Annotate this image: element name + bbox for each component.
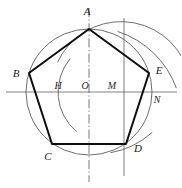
vertex-label-b: B: [13, 67, 20, 79]
vertex-label-e: E: [155, 64, 163, 76]
point-label-h: H: [53, 80, 62, 91]
arc-lower-right-intersect: [111, 132, 153, 152]
pentagon-construction-drawing: A B C D E H O M N: [0, 0, 181, 188]
geometric-figure: A B C D E H O M N: [0, 0, 181, 188]
vertex-label-c: C: [44, 150, 52, 162]
axes-group: [6, 8, 177, 182]
vertex-label-d: D: [133, 142, 142, 154]
point-label-n: N: [153, 94, 162, 105]
vertex-label-a: A: [83, 5, 91, 17]
construction-arcs-group: [58, 22, 182, 153]
point-label-m: M: [107, 80, 117, 91]
point-label-o: O: [81, 80, 88, 91]
arc-h-left: [58, 59, 77, 132]
arc-m-through-a-and-d: [58, 22, 182, 68]
